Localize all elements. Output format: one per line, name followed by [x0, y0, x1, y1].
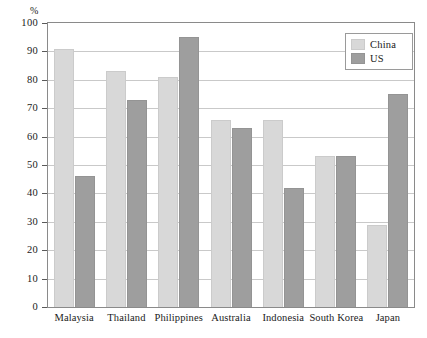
y-axis-tick	[42, 23, 47, 24]
bar-chart: % 0102030405060708090100 MalaysiaThailan…	[0, 0, 427, 338]
legend-item-china: China	[351, 38, 407, 51]
legend-item-us: US	[351, 52, 407, 65]
legend-swatch-us-icon	[351, 53, 365, 64]
y-axis-tick-label: 70	[0, 103, 38, 114]
y-axis-unit-label: %	[30, 6, 39, 16]
x-axis-label-malaysia: Malaysia	[48, 312, 100, 324]
x-axis-label-philippines: Philippines	[153, 312, 205, 324]
y-axis-tick	[42, 137, 47, 138]
y-axis-tick	[42, 222, 47, 223]
x-axis-label-indonesia: Indonesia	[257, 312, 309, 324]
legend-swatch-china-icon	[351, 39, 365, 50]
bar-group	[263, 23, 304, 307]
y-axis-tick	[42, 165, 47, 166]
y-axis-tick	[42, 250, 47, 251]
bar-group	[106, 23, 147, 307]
legend: China US	[345, 33, 413, 70]
bar-china-malaysia	[54, 49, 74, 307]
y-axis-tick	[42, 51, 47, 52]
y-axis-tick	[42, 193, 47, 194]
y-axis-tick-label: 10	[0, 274, 38, 285]
bar-group	[54, 23, 95, 307]
x-axis-label-south-korea: South Korea	[309, 312, 361, 324]
legend-label-china: China	[370, 39, 396, 50]
y-axis-tick	[42, 80, 47, 81]
bar-us-indonesia	[284, 188, 304, 307]
x-axis-label-australia: Australia	[205, 312, 257, 324]
legend-label-us: US	[370, 53, 384, 64]
y-axis-tick-label: 90	[0, 46, 38, 57]
bar-group	[158, 23, 199, 307]
bar-us-australia	[232, 128, 252, 307]
y-axis-tick-label: 60	[0, 132, 38, 143]
bar-china-philippines	[158, 77, 178, 307]
bar-us-malaysia	[75, 176, 95, 307]
bar-us-japan	[388, 94, 408, 307]
x-axis-label-thailand: Thailand	[100, 312, 152, 324]
bar-us-south-korea	[336, 156, 356, 307]
bar-china-indonesia	[263, 120, 283, 307]
x-axis-label-japan: Japan	[362, 312, 414, 324]
y-axis-tick-label: 80	[0, 75, 38, 86]
y-axis-tick-label: 40	[0, 188, 38, 199]
bar-us-thailand	[127, 100, 147, 307]
y-axis-tick-label: 0	[0, 302, 38, 313]
y-axis-tick-label: 100	[0, 18, 38, 29]
y-axis-tick-label: 30	[0, 217, 38, 228]
bar-china-japan	[367, 225, 387, 307]
bar-china-thailand	[106, 71, 126, 307]
bar-china-south-korea	[315, 156, 335, 307]
y-axis-tick	[42, 108, 47, 109]
y-axis-tick	[42, 307, 47, 308]
bar-china-australia	[211, 120, 231, 307]
bar-group	[211, 23, 252, 307]
y-axis-tick-label: 20	[0, 245, 38, 256]
bar-us-philippines	[179, 37, 199, 307]
y-axis-tick	[42, 279, 47, 280]
y-axis-tick-label: 50	[0, 160, 38, 171]
